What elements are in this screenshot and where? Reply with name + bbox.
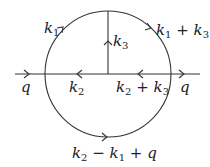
label-k3: k3: [113, 32, 128, 51]
label-q-left: q: [21, 78, 31, 96]
label-k2-minus-k1-plus-q: k2 − k1 + q: [72, 144, 157, 163]
label-k1: k1: [44, 19, 59, 38]
label-k1-plus-k3: k1 + k3: [156, 21, 209, 40]
label-k2-plus-k3: k2 + k3: [116, 78, 169, 97]
label-q-right: q: [180, 78, 190, 96]
feynman-diagram: k1 k1 + k3 k3 q k2 k2 + k3 q k2 − k1 + q: [0, 0, 210, 167]
label-k2: k2: [69, 78, 84, 97]
